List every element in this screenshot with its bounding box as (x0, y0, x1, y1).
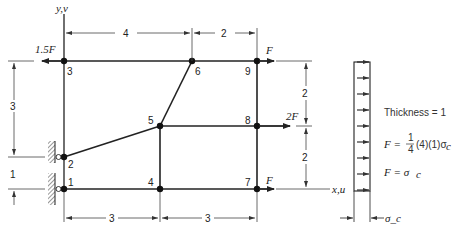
node-4 (157, 186, 163, 192)
node-label-6: 6 (195, 66, 201, 77)
dim-right-2b: 2 (302, 152, 308, 163)
load-label-node-9: F (265, 44, 273, 56)
wall-hatch-lower (48, 173, 55, 205)
dim-right-2a: 2 (302, 88, 308, 99)
dim-bottom-3a: 3 (109, 213, 115, 224)
load-label-node-3: 1.5F (35, 43, 56, 55)
edge-5-6 (160, 61, 192, 126)
fem-diagram: y,v 1 2 3 4 5 6 7 8 9 (0, 0, 452, 230)
roller-icon-node-1 (56, 187, 61, 192)
f-result-sub: c (416, 168, 421, 180)
dim-top-2: 2 (221, 28, 227, 39)
y-axis-label: y,v (55, 2, 68, 14)
dim-top-4: 4 (123, 28, 129, 39)
f-equation-sub: c (446, 140, 451, 152)
f-equation-fraction-den: 4 (408, 144, 414, 155)
dimensions-bottom (64, 192, 257, 222)
stress-label: σ_c (385, 212, 401, 224)
node-label-1: 1 (68, 177, 74, 188)
load-label-node-8: 2F (286, 110, 299, 122)
f-result-prefix: F = σ (383, 166, 410, 178)
node-label-8: 8 (245, 115, 251, 126)
roller-icon-node-2 (56, 155, 61, 160)
f-equation-prefix: F = (383, 138, 401, 150)
node-label-3: 3 (67, 66, 73, 77)
edge-2-5 (64, 126, 160, 157)
node-label-9: 9 (245, 66, 251, 77)
dimensions-top (66, 28, 257, 61)
dimensions-left (8, 61, 45, 205)
dim-left-1: 1 (10, 169, 16, 180)
dimensions-right (276, 61, 330, 189)
wall-supports (48, 141, 61, 205)
node-label-5: 5 (148, 115, 154, 126)
load-label-node-7: F (265, 174, 273, 186)
wall-hatch-upper (48, 141, 55, 163)
dim-bottom-3b: 3 (205, 213, 211, 224)
f-equation-suffix: (4)(1)σ (416, 139, 447, 150)
loads (42, 61, 290, 189)
f-equation-fraction-num: 1 (408, 132, 414, 143)
node-2 (61, 154, 67, 160)
y-axis: y,v (55, 2, 68, 189)
node-1 (61, 186, 67, 192)
node-5 (157, 123, 163, 129)
node-label-7: 7 (245, 177, 251, 188)
dim-left-3: 3 (10, 101, 16, 112)
stress-block (340, 62, 384, 222)
node-label-2: 2 (68, 159, 74, 170)
notes: Thickness = 1 F = 1 4 (4)(1)σ c F = σ c (383, 107, 451, 180)
x-axis-label: x,u (331, 183, 346, 195)
node-label-4: 4 (148, 177, 154, 188)
thickness-note: Thickness = 1 (384, 107, 446, 118)
